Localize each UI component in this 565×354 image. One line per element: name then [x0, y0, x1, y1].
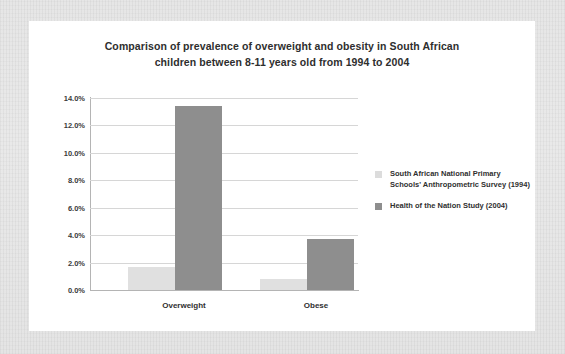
y-tick-label: 0.0%	[41, 286, 85, 295]
bar-overweight-1994[interactable]	[128, 267, 175, 290]
y-tick-label: 8.0%	[41, 176, 85, 185]
y-tick-label: 12.0%	[41, 121, 85, 130]
y-tick-label: 2.0%	[41, 258, 85, 267]
legend-label-1994-line-2: Schools' Anthropometric Survey (1994)	[390, 180, 530, 191]
plot-area	[90, 98, 358, 290]
legend-item-2004[interactable]: Health of the Nation Study (2004)	[375, 201, 535, 212]
chart-legend: South African National Primary Schools' …	[375, 169, 535, 223]
x-axis-label-obese: Obese	[222, 301, 410, 310]
y-tick-label: 14.0%	[41, 94, 85, 103]
legend-label-1994: South African National Primary Schools' …	[390, 169, 530, 190]
legend-label-2004: Health of the Nation Study (2004)	[390, 201, 508, 212]
bar-group-overweight	[128, 98, 222, 290]
chart-title-line-1: Comparison of prevalence of overweight a…	[105, 40, 460, 52]
chart-title: Comparison of prevalence of overweight a…	[29, 38, 535, 70]
bar-obese-1994[interactable]	[260, 279, 307, 290]
legend-swatch-icon	[375, 203, 382, 210]
legend-swatch-icon	[375, 171, 382, 178]
y-axis-tick-labels: 14.0% 12.0% 10.0% 8.0% 6.0% 4.0% 2.0% 0.…	[37, 98, 85, 290]
image-frame: Comparison of prevalence of overweight a…	[0, 0, 565, 354]
y-tick-label: 4.0%	[41, 231, 85, 240]
legend-label-1994-line-1: South African National Primary	[390, 169, 530, 180]
bar-overweight-2004[interactable]	[175, 106, 222, 290]
bar-group-obese	[260, 98, 354, 290]
chart-title-line-2: children between 8-11 years old from 199…	[29, 54, 535, 70]
y-tick-label: 10.0%	[41, 148, 85, 157]
chart-canvas: Comparison of prevalence of overweight a…	[29, 21, 535, 331]
x-axis-line	[90, 290, 359, 291]
y-tick-label: 6.0%	[41, 203, 85, 212]
legend-label-2004-line-1: Health of the Nation Study (2004)	[390, 201, 508, 212]
legend-item-1994[interactable]: South African National Primary Schools' …	[375, 169, 535, 190]
bar-obese-2004[interactable]	[307, 239, 354, 290]
